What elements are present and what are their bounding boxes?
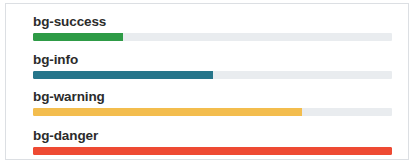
progress-demo-content: bg-success bg-info bg-warning [33,10,390,153]
progress-row: bg-success [33,14,392,41]
progress-label: bg-danger [33,128,392,143]
progress-bar-fill [33,71,213,79]
progress-bar-fill [33,108,302,116]
progress-track [33,33,392,41]
progress-track [33,147,392,155]
progress-row: bg-warning [33,89,392,116]
progress-label: bg-success [33,14,392,29]
progress-label: bg-warning [33,89,392,104]
progress-track [33,71,392,79]
progress-label: bg-info [33,52,392,67]
progress-row: bg-info [33,52,392,79]
progress-demo-panel: bg-success bg-info bg-warning [5,3,409,160]
progress-bar-fill [33,33,123,41]
progress-bar-fill [33,147,392,155]
screenshot-root: bg-success bg-info bg-warning [0,0,416,166]
progress-track [33,108,392,116]
progress-row: bg-danger [33,128,392,155]
